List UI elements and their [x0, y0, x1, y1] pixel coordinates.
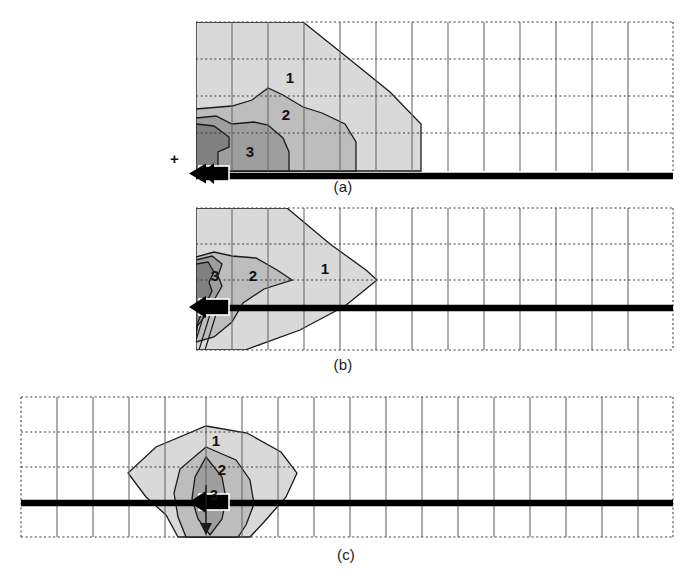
contour-figure: 1 2 3 + (a) [0, 0, 686, 574]
panel-a: 1 2 3 + [0, 0, 686, 190]
panel-a-plot: 1 2 3 [0, 0, 686, 190]
contour-label-c-2: 2 [218, 461, 226, 478]
panel-b-caption: (b) [313, 356, 373, 373]
contour-label-b-3: 3 [211, 267, 219, 284]
grid-horizontal-lines-c [21, 397, 673, 537]
contour-label-a-2: 2 [282, 106, 290, 123]
contour-label-a-3: 3 [246, 143, 254, 160]
panel-b-plot: 3 2 1 [0, 190, 686, 375]
injection-arrow-b [189, 296, 229, 318]
contour-label-b-2: 2 [249, 267, 257, 284]
plus-marker-a: + [170, 151, 179, 166]
panel-c-caption: (c) [316, 546, 376, 563]
contour-label-a-1: 1 [286, 69, 294, 86]
panel-b: 3 2 1 + [0, 190, 686, 375]
contour-label-b-1: 1 [321, 260, 329, 277]
injection-arrow-a [189, 163, 229, 184]
contour-bands-b [193, 208, 377, 350]
contour-label-c-1: 1 [212, 432, 220, 449]
contour-label-c-3: 3 [210, 486, 218, 503]
